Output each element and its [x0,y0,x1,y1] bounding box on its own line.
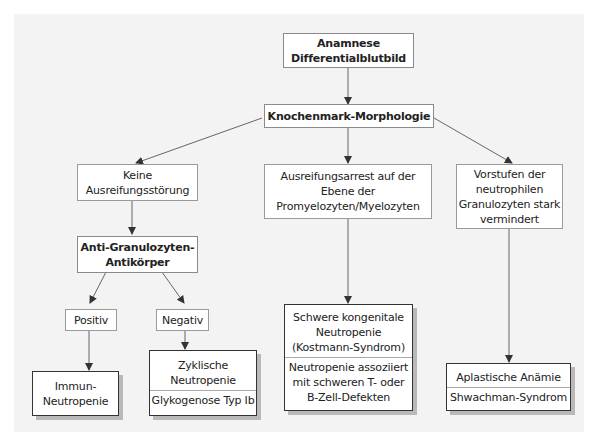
node-glykogenose-section: Glykogenose Typ Ib [150,390,256,410]
node-knochenmark-morphologie: Knochenmark-Morphologie [264,104,434,128]
node-antibodies-line2: Antikörper [105,255,169,270]
node-knochenmark-morphologie-label: Knochenmark-Morphologie [268,109,431,124]
node-zyklisch-section: Zyklische Neutropenie [150,356,256,390]
node-zelldefekte-line3: B-Zell-Defekten [285,390,412,405]
node-zyklisch-line2: Neutropenie [150,373,256,388]
node-shwachman-line1: Shwachman-Syndrom [447,390,570,405]
node-aplastisch-line1: Aplastische Anämie [447,370,570,385]
node-aplastische-anaemie: Aplastische Anämie Shwachman-Syndrom [446,363,571,411]
node-vorstufen-line4: vermindert [480,212,539,227]
node-kostmann-line1: Schwere kongenitale [285,310,412,325]
node-anti-granulozyten-antikoerper: Anti-Granulozyten- Antikörper [77,236,198,273]
node-anamnese: Anamnese Differentialblutbild [283,33,414,68]
node-vorstufen-vermindert: Vorstufen der neutrophilen Granulozyten … [456,164,563,229]
node-schwere-kongenitale-neutropenie: Schwere kongenitale Neutropenie (Kostman… [284,304,413,411]
node-arrest-line1: Ausreifungsarrest auf der [281,169,416,184]
node-keine-line1: Keine [123,168,152,183]
node-vorstufen-line1: Vorstufen der [474,167,546,182]
node-immun-neutropenie: Immun- Neutropenie [32,371,119,416]
node-ausreifungsarrest: Ausreifungsarrest auf der Ebene der Prom… [264,164,432,219]
node-kostmann-section: Schwere kongenitale Neutropenie (Kostman… [285,308,412,357]
node-zelldefekte-line1: Neutropenie assoziiert [285,360,412,375]
node-aplastisch-section: Aplastische Anämie [447,368,570,387]
node-negativ-label: Negativ [162,313,203,328]
node-arrest-line2: Ebene der [321,184,375,199]
node-keine-line2: Ausreifungsstörung [86,183,189,198]
node-kostmann-line3: (Kostmann-Syndrom) [285,340,412,355]
node-positiv: Positiv [65,309,117,331]
node-zelldefekte-section: Neutropenie assoziiert mit schweren T- o… [285,357,412,407]
node-antibodies-line1: Anti-Granulozyten- [81,240,195,255]
node-anamnese-line2: Differentialblutbild [291,51,406,66]
node-immun-line2: Neutropenie [43,394,109,409]
node-positiv-label: Positiv [74,313,108,328]
node-negativ: Negativ [156,309,209,331]
node-anamnese-line1: Anamnese [317,36,380,51]
node-vorstufen-line2: neutrophilen [476,182,543,197]
node-glykogenose-line1: Glykogenose Typ Ib [150,393,256,408]
node-keine-ausreifungsstoerung: Keine Ausreifungsstörung [77,164,198,201]
node-zelldefekte-line2: mit schweren T- oder [285,375,412,390]
node-shwachman-section: Shwachman-Syndrom [447,387,570,407]
node-zyklisch-line1: Zyklische [150,358,256,373]
node-vorstufen-line3: Granulozyten stark [459,197,560,212]
node-immun-line1: Immun- [55,379,96,394]
node-kostmann-line2: Neutropenie [285,325,412,340]
node-zyklische-neutropenie: Zyklische Neutropenie Glykogenose Typ Ib [149,350,257,416]
node-arrest-line3: Promyelozyten/Myelozyten [276,199,419,214]
